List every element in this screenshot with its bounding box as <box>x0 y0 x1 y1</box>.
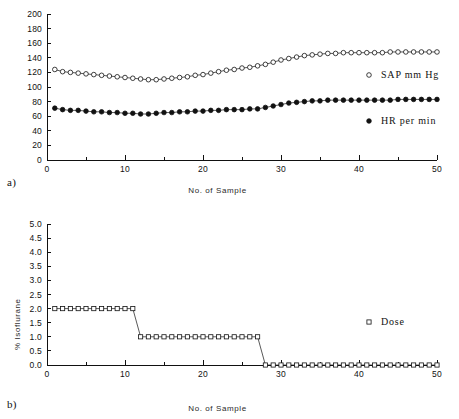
legend-label: Dose <box>381 316 405 327</box>
data-point <box>365 50 370 55</box>
x-tick-label: 40 <box>354 164 364 174</box>
data-point <box>404 50 409 55</box>
data-point <box>435 50 440 55</box>
data-point <box>396 363 400 367</box>
data-point <box>99 73 104 78</box>
data-point <box>271 363 275 367</box>
data-point <box>419 97 424 102</box>
data-point <box>279 58 284 63</box>
data-point <box>170 335 174 339</box>
data-point <box>193 73 198 78</box>
series-line-0 <box>55 52 437 80</box>
data-point <box>318 52 323 57</box>
y-tick-label: 200 <box>27 9 42 19</box>
y-tick-label: 3.0 <box>30 275 42 285</box>
data-point <box>240 107 245 112</box>
data-point <box>341 363 345 367</box>
data-point <box>372 50 377 55</box>
y-tick-label: 0.0 <box>30 360 42 370</box>
data-point <box>216 108 221 113</box>
data-point <box>310 99 315 104</box>
data-point <box>380 50 385 55</box>
data-point <box>271 104 276 109</box>
data-point <box>99 110 104 115</box>
data-point <box>255 64 260 69</box>
y-tick-label: 60 <box>32 111 42 121</box>
data-point <box>84 307 88 311</box>
y-tick-label: 4.5 <box>30 233 42 243</box>
data-point <box>92 307 96 311</box>
data-point <box>372 98 377 103</box>
data-point <box>224 68 229 73</box>
data-point <box>404 97 409 102</box>
x-tick-label: 0 <box>45 164 50 174</box>
data-point <box>287 363 291 367</box>
x-tick-label: 10 <box>120 369 130 379</box>
data-point <box>411 50 416 55</box>
data-point <box>232 107 237 112</box>
data-point <box>380 98 385 103</box>
data-point <box>295 363 299 367</box>
x-tick-label: 0 <box>45 369 50 379</box>
x-tick-label: 10 <box>120 164 130 174</box>
data-point <box>53 67 58 72</box>
y-tick-label: 40 <box>32 126 42 136</box>
data-point <box>131 307 135 311</box>
data-point <box>279 363 283 367</box>
data-point <box>107 307 111 311</box>
y-tick-label: 160 <box>27 38 42 48</box>
data-point <box>357 98 362 103</box>
data-point <box>92 110 97 115</box>
data-point <box>115 74 120 79</box>
legend-label: HR per min <box>381 115 436 126</box>
data-point <box>84 109 89 114</box>
data-point <box>302 99 307 104</box>
data-point <box>326 51 331 56</box>
data-point <box>123 75 128 80</box>
y-tick-label: 5.0 <box>30 219 42 229</box>
data-point <box>279 102 284 107</box>
data-point <box>146 77 151 82</box>
data-point <box>333 98 338 103</box>
y-tick-label: 0.5 <box>30 346 42 356</box>
data-point <box>216 69 221 74</box>
data-point <box>396 50 401 55</box>
data-point <box>419 50 424 55</box>
data-point <box>318 99 323 104</box>
data-point <box>201 72 206 77</box>
data-point <box>326 363 330 367</box>
legend-marker <box>367 119 372 124</box>
data-point <box>240 66 245 71</box>
data-point <box>162 77 167 82</box>
data-point <box>263 62 268 67</box>
x-tick-label: 30 <box>276 164 286 174</box>
data-point <box>131 111 136 116</box>
data-point <box>373 363 377 367</box>
data-point <box>248 107 253 112</box>
data-point <box>146 335 150 339</box>
data-point <box>53 106 58 111</box>
data-point <box>209 335 213 339</box>
data-point <box>170 110 175 115</box>
y-tick-label: 80 <box>32 97 42 107</box>
data-point <box>349 98 354 103</box>
data-point <box>61 307 65 311</box>
data-point <box>310 53 315 58</box>
data-point <box>248 335 252 339</box>
data-point <box>248 65 253 70</box>
panel-b-yaxis-title: % Isoflurane <box>13 298 22 350</box>
data-point <box>263 105 268 110</box>
data-point <box>201 335 205 339</box>
data-point <box>334 363 338 367</box>
data-point <box>76 307 80 311</box>
x-tick-label: 20 <box>198 369 208 379</box>
data-point <box>115 307 119 311</box>
y-tick-label: 4.0 <box>30 247 42 257</box>
data-point <box>232 335 236 339</box>
data-point <box>240 335 244 339</box>
data-point <box>60 107 65 112</box>
data-point <box>427 50 432 55</box>
data-point <box>60 69 65 74</box>
data-point <box>92 72 97 77</box>
y-tick-label: 0 <box>37 155 42 165</box>
